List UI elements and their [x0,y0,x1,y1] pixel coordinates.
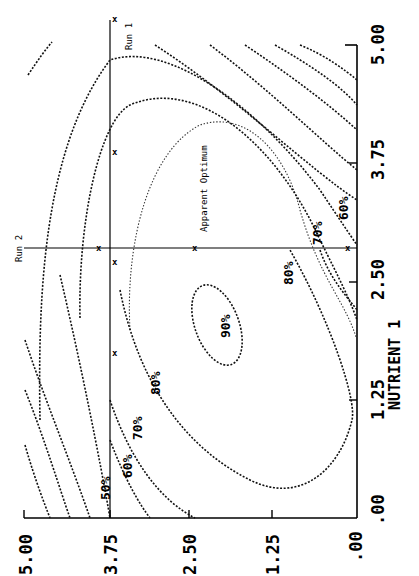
label-90: 90% [218,314,233,338]
contour-70-upper [80,98,357,320]
y-tick-labels: 5.00 3.75 2.50 1.25 .00 [16,531,366,575]
run1-label: Run 1 [124,23,134,50]
svg-text:3.75: 3.75 [101,534,121,575]
nutrient1-axis-title: NUTRIENT 1 [386,320,404,410]
svg-text:2.50: 2.50 [180,534,200,575]
svg-text:.00: .00 [368,494,388,525]
contour-90 [182,278,252,372]
nutrient1-tick-labels: .00 1.25 2.50 3.75 5.00 [368,24,388,525]
apparent-optimum-label: Apparent Optimum [199,145,209,232]
contour-band-3 [25,445,50,518]
contour-labels: 90% 80% 80% 70% 70% 60% 60% 50% [98,196,351,500]
contour-50-top [28,42,52,75]
svg-text:x: x [112,257,118,267]
svg-text:x: x [112,147,118,157]
contour-band-r4 [300,45,357,80]
svg-text:.00: .00 [346,531,366,562]
run2-label: Run 2 [14,235,24,262]
svg-text:x: x [112,14,118,24]
contour-band-2 [25,390,70,518]
label-50: 50% [98,476,113,500]
contour-80 [120,250,353,488]
contour-band-r5 [155,45,357,200]
svg-text:2.50: 2.50 [368,259,388,300]
label-80-right: 80% [281,261,296,285]
axes [24,45,357,518]
contour-plot: x x x x x x x 90% 80% 80% [0,0,419,576]
contour-70-right [320,250,357,310]
contour-band-r2 [245,45,357,130]
label-70-left: 70% [130,416,145,440]
label-60-right: 60% [336,196,351,220]
svg-text:1.25: 1.25 [263,534,283,575]
svg-text:5.00: 5.00 [368,24,388,65]
label-60-left: 60% [120,454,135,478]
svg-text:1.25: 1.25 [368,379,388,420]
label-80-left: 80% [148,371,163,395]
svg-text:5.00: 5.00 [16,534,36,575]
svg-text:x: x [112,348,118,358]
svg-text:x: x [345,243,351,253]
contours [25,42,357,518]
svg-text:x: x [192,243,198,253]
svg-text:x: x [96,243,102,253]
label-70-right: 70% [310,221,325,245]
svg-text:3.75: 3.75 [368,139,388,180]
contour-60-lower [110,440,150,518]
